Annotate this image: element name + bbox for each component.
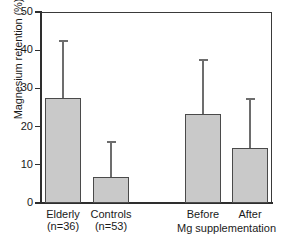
bar-after (232, 148, 268, 203)
y-axis-tick (35, 126, 40, 127)
y-axis-tick (35, 50, 40, 51)
y-axis-tick-label: 20 (7, 121, 33, 132)
y-axis-tick (35, 202, 40, 203)
y-axis-tick (35, 88, 40, 89)
y-axis-tick (35, 164, 40, 165)
y-axis-tick-label: 50 (7, 6, 33, 17)
y-axis-tick-label: 30 (7, 82, 33, 93)
y-axis-tick (35, 11, 40, 12)
y-axis-spine (40, 11, 42, 204)
bar-before (185, 114, 221, 203)
x-axis-category-label: Controls(n=53) (71, 208, 151, 232)
category-name: After (238, 208, 261, 220)
bar-controls (93, 177, 129, 203)
y-axis-tick-label: 0 (7, 197, 33, 208)
category-sample-size: (n=53) (71, 220, 151, 232)
error-bar-cap (59, 40, 68, 41)
error-bar-cap (246, 98, 255, 99)
error-bar-cap (107, 141, 116, 142)
y-axis-tick-label: 10 (7, 159, 33, 170)
y-axis-tick-label: 40 (7, 44, 33, 55)
group-annotation-label: Mg supplementation (157, 222, 281, 234)
category-name: Controls (91, 208, 132, 220)
x-axis-category-label: After (210, 208, 280, 220)
bar-elderly (45, 98, 81, 203)
error-bar-cap (199, 59, 208, 60)
magnesium-retention-bar-chart: Magnesium retention (%) 01020304050Elder… (0, 0, 280, 240)
